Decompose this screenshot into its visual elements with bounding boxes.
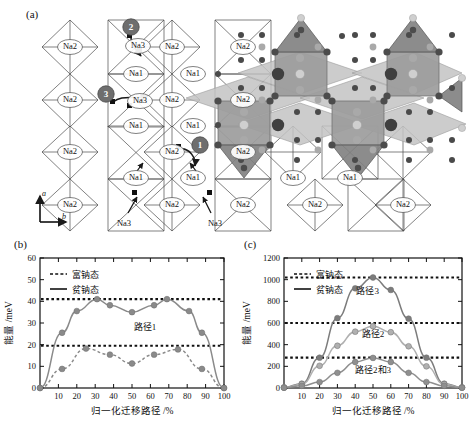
site-label-text: Na2	[236, 41, 250, 51]
x-tick-label: 20	[73, 391, 82, 401]
data-point	[317, 379, 323, 385]
curve-annotation: 路径2	[362, 328, 385, 339]
site-na2: Na2	[391, 198, 416, 213]
energy-profile-chart-c: 1020304050607080901000200400600800100012…	[236, 236, 473, 430]
na3-callout-right: Na3	[208, 218, 222, 228]
data-point	[459, 385, 465, 391]
data-point	[59, 330, 65, 336]
panel-c-label: (c)	[244, 238, 256, 250]
y-tick-label: 1000	[263, 275, 280, 285]
data-point	[129, 309, 135, 315]
site-label-text: Na2	[308, 199, 322, 209]
data-point	[335, 315, 341, 321]
legend-label: 富钠态	[72, 269, 99, 280]
site-na2: Na2	[231, 198, 256, 213]
site-label-text: Na1	[286, 172, 300, 182]
legend-label: 贫钠态	[316, 284, 343, 295]
site-label-text: Na1	[129, 68, 143, 78]
site-label-text: Na1	[129, 120, 143, 130]
site-na2: Na2	[303, 198, 328, 213]
y-tick-label: 200	[267, 361, 280, 371]
data-point	[83, 346, 89, 352]
site-na2: Na2	[160, 198, 185, 213]
y-tick-label: 0	[32, 383, 36, 393]
panel-b-label: (b)	[14, 238, 27, 250]
y-tick-label: 40	[28, 296, 37, 306]
path-badge-3-text: 3	[104, 89, 109, 99]
data-point	[388, 287, 394, 293]
data-point	[186, 308, 192, 314]
x-tick-label: 30	[333, 391, 342, 401]
site-na2: Na2	[58, 93, 83, 108]
y-tick-label: 10	[28, 361, 37, 371]
y-tick-label: 400	[267, 340, 280, 350]
data-point	[151, 352, 157, 358]
data-point	[352, 329, 358, 335]
site-na2: Na2	[231, 145, 256, 160]
site-na1: Na1	[181, 67, 206, 82]
site-label-text: Na2	[165, 41, 179, 51]
site-label-text: Na1	[343, 172, 357, 182]
shaded-polyhedra	[186, 14, 466, 178]
x-tick-label: 100	[456, 391, 469, 401]
y-tick-label: 20	[28, 340, 37, 350]
x-tick-label: 10	[54, 391, 63, 401]
y-tick-label: 60	[28, 253, 37, 263]
site-label-text: Na2	[63, 146, 77, 156]
site-na2: Na2	[58, 40, 83, 55]
data-point	[370, 275, 376, 281]
data-point	[424, 355, 430, 361]
crystal-structure-diagram: 2 3 1 Na2Na3Na2Na2Na1Na1Na2Na3Na2Na2Na1N…	[0, 0, 473, 236]
site-label-text: Na1	[186, 120, 200, 130]
path-badge-1: 1	[192, 137, 208, 153]
site-label-text: Na2	[165, 199, 179, 209]
data-point	[317, 355, 323, 361]
data-point	[441, 383, 447, 389]
x-tick-label: 90	[201, 391, 210, 401]
site-na1: Na1	[124, 119, 149, 134]
data-point	[151, 302, 157, 308]
site-na2: Na2	[231, 93, 256, 108]
site-na2: Na2	[160, 93, 185, 108]
y-axis-title: 能量 /meV	[3, 301, 14, 345]
data-point	[388, 329, 394, 335]
site-na1: Na1	[281, 171, 306, 186]
data-point	[281, 385, 287, 391]
site-na3: Na3	[126, 39, 151, 54]
site-na3: Na3	[128, 94, 153, 109]
legend-label: 富钠态	[316, 269, 343, 280]
energy-profile-chart-b: 1020304050607080901000102030405060路径1富钠态…	[0, 236, 236, 430]
x-tick-label: 30	[91, 391, 100, 401]
site-label-text: Na3	[133, 95, 147, 105]
x-tick-label: 80	[422, 391, 431, 401]
data-point	[129, 361, 135, 367]
y-tick-label: 50	[28, 275, 37, 285]
data-point	[74, 308, 80, 314]
site-na1: Na1	[124, 171, 149, 186]
data-point	[37, 385, 43, 391]
data-point	[406, 316, 412, 322]
data-point	[335, 343, 341, 349]
site-na1: Na1	[181, 119, 206, 134]
path-badge-2-text: 2	[129, 22, 134, 32]
data-point	[107, 352, 113, 358]
data-point	[299, 383, 305, 389]
site-na2: Na2	[58, 145, 83, 160]
site-label-text: Na2	[236, 94, 250, 104]
x-tick-label: 60	[387, 391, 396, 401]
data-point	[175, 347, 181, 353]
curve-annotation: 路径1	[134, 321, 157, 332]
x-tick-label: 80	[183, 391, 192, 401]
data-point	[164, 296, 170, 302]
x-tick-label: 10	[298, 391, 307, 401]
panel-b-chart: (b) 1020304050607080901000102030405060路径…	[0, 236, 236, 430]
panel-a-crystal-structure: (a)	[0, 0, 473, 236]
series-line	[40, 349, 224, 388]
data-point	[335, 370, 341, 376]
data-point	[199, 330, 205, 336]
y-tick-label: 800	[267, 296, 280, 306]
axis-a-label: a	[42, 189, 46, 198]
data-point	[370, 355, 376, 361]
x-tick-label: 70	[404, 391, 413, 401]
site-label-text: Na2	[236, 146, 250, 156]
